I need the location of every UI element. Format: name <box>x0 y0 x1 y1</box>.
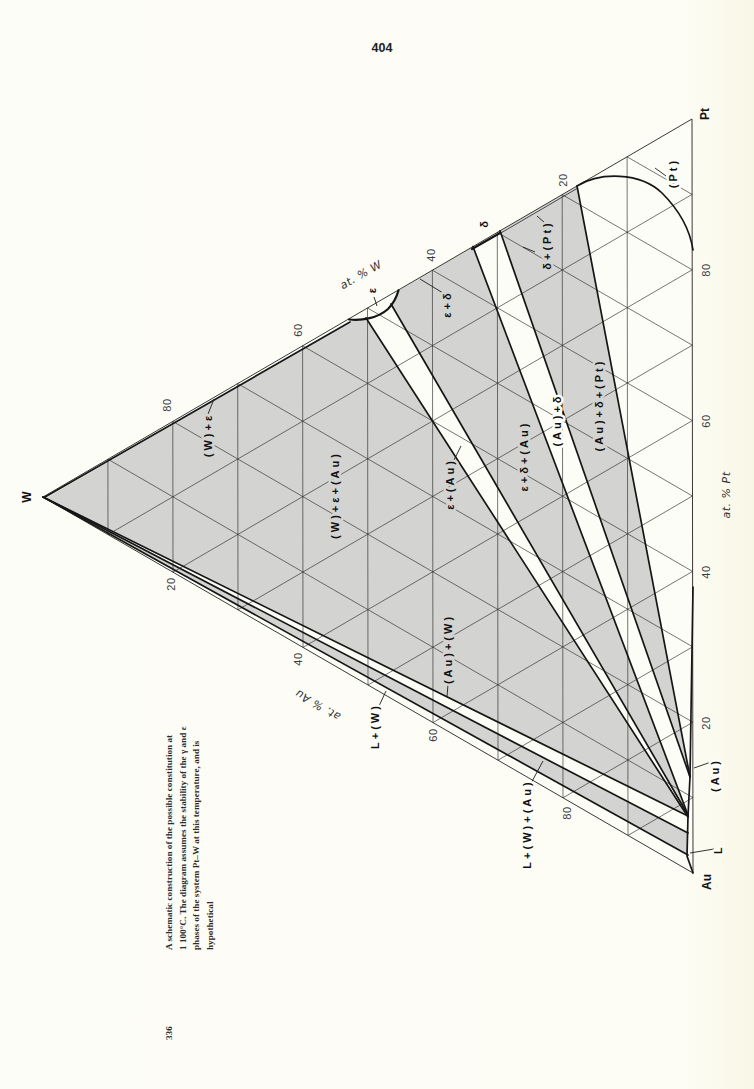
au-axis-tick-80: 80 <box>561 806 573 819</box>
caption-line: phases of the system Pt–W at this temper… <box>190 720 204 1040</box>
label-l-w-au: L+(W)+(Au) <box>521 779 533 868</box>
label-au-delta-pt: (Au)+δ+(Pt) <box>593 359 605 452</box>
label-w-eps: (W)+ε <box>202 413 214 457</box>
au-axis-tick-20: 20 <box>165 577 177 590</box>
pt-axis-tick-20: 20 <box>700 716 712 729</box>
label-delta-pt: δ+(Pt) <box>541 220 553 269</box>
figure-caption: 336 A schematic construction of the poss… <box>163 720 221 1040</box>
label-eps-phase: ε <box>366 285 378 293</box>
vertex-label-au: Au <box>700 874 714 890</box>
pt-axis-tick-40: 40 <box>700 565 712 578</box>
label-pt-phase: (Pt) <box>667 158 679 188</box>
label-au-delta: (Au)+δ <box>551 393 563 446</box>
label-delta-phase: δ <box>478 218 490 228</box>
caption-line: A schematic construction of the possible… <box>163 720 177 1040</box>
vertex-label-pt: Pt <box>698 108 712 120</box>
figure-number: 336 <box>163 1026 177 1040</box>
label-au-phase: (Au) <box>709 758 721 792</box>
label-l-w: L+(W) <box>369 703 381 749</box>
label-eps-delta: ε+δ <box>441 290 453 317</box>
leader-l <box>690 849 714 853</box>
label-eps-au: ε+(Au) <box>444 458 456 510</box>
w-axis-tick-80: 80 <box>161 398 173 411</box>
label-eps-delta-au: ε+δ+(Au) <box>518 421 530 492</box>
w-axis-tick-60: 60 <box>292 323 304 336</box>
pt-axis-title: at. % Pt <box>720 471 733 518</box>
label-liquid: L <box>712 844 724 854</box>
w-axis-tick-20: 20 <box>557 173 569 186</box>
pt-axis-tick-60: 60 <box>700 414 712 427</box>
au-axis-title: at. % Au <box>293 687 343 724</box>
vertex-label-w: W <box>20 491 34 503</box>
caption-line: hypothetical <box>204 720 218 1040</box>
au-axis-tick-40: 40 <box>292 652 304 665</box>
label-w-eps-au: (W)+ε+(Au) <box>329 451 341 539</box>
au-axis-tick-60: 60 <box>427 728 439 741</box>
label-au-w: (Au)+(W) <box>442 614 454 684</box>
pt-axis-tick-80: 80 <box>700 263 712 276</box>
caption-line: 1 100°C. The diagram assumes the stabili… <box>177 720 191 1040</box>
ternary-phase-diagram: (W)+ε (W)+ε+(Au) ε+(Au) ε+δ+(Au) (Au)+δ … <box>0 0 754 1089</box>
w-axis-tick-40: 40 <box>425 248 437 261</box>
